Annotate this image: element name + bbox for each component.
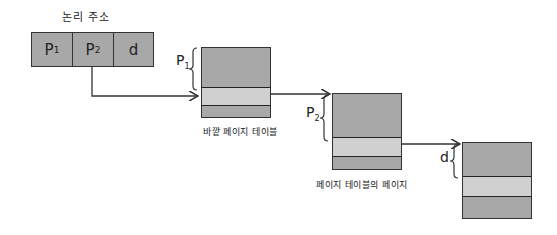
field-subscript: 2 bbox=[95, 45, 101, 55]
page-of-page-table-caption: 페이지 테이블의 페이지 bbox=[316, 178, 408, 191]
brace-label-p1: P1 bbox=[176, 52, 190, 71]
field-subscript: 1 bbox=[54, 45, 60, 55]
table-entry-highlight bbox=[333, 137, 401, 157]
brace-label-p2: P2 bbox=[306, 104, 320, 123]
address-field-d: d bbox=[113, 32, 154, 67]
outer-page-table bbox=[201, 47, 271, 118]
table-entry-highlight bbox=[202, 87, 270, 106]
field-label: P bbox=[86, 41, 95, 59]
address-field-p1: P1 bbox=[31, 32, 73, 67]
brace-label-d: d bbox=[440, 149, 449, 165]
address-field-p2: P2 bbox=[72, 32, 115, 67]
outer-page-table-caption: 바깥 페이지 테이블 bbox=[203, 125, 278, 138]
table-entry-highlight bbox=[463, 176, 531, 197]
final-page bbox=[462, 142, 532, 219]
page-of-page-table bbox=[332, 93, 402, 170]
logical-address-title: 논리 주소 bbox=[62, 8, 111, 24]
field-label: d bbox=[129, 41, 139, 59]
field-label: P bbox=[45, 41, 54, 59]
